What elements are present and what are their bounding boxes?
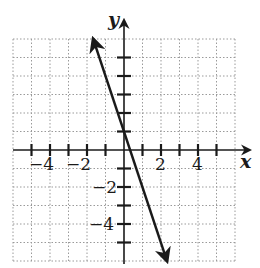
coordinate-plane: y x −4 −2 2 4 −2 −4: [0, 0, 260, 268]
x-tick-label-4: 4: [192, 154, 203, 174]
y-tick-label-neg2: −2: [92, 177, 117, 197]
axes: [13, 20, 250, 264]
y-axis-label: y: [107, 8, 121, 30]
x-axis-label: x: [239, 150, 252, 172]
x-tick-label-neg4: −4: [29, 154, 54, 174]
x-tick-label-neg2: −2: [66, 154, 91, 174]
y-tick-label-neg4: −4: [89, 214, 114, 234]
x-tick-label-2: 2: [155, 154, 166, 174]
